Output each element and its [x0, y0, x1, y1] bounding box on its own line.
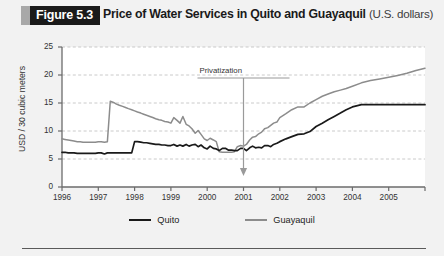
figure-title-units: (U.S. dollars)	[369, 7, 433, 20]
figure-number-badge: Figure 5.3	[21, 6, 100, 25]
chart-legend: Quito Guayaquil	[0, 212, 444, 228]
privatization-annotation-label: Privatization	[200, 66, 242, 75]
figure-container: Figure 5.3 Price of Water Services in Qu…	[0, 0, 444, 256]
chart-body: USD / 30 cubic meters Privatization 0510…	[0, 30, 444, 230]
figure-header: Figure 5.3 Price of Water Services in Qu…	[0, 0, 444, 30]
y-axis-tick-label: 0	[33, 182, 53, 191]
x-axis-tick-label: 2001	[227, 193, 261, 202]
x-axis-tick-label: 2003	[299, 193, 333, 202]
y-axis-tick-label: 25	[33, 42, 53, 51]
legend-item-quito: Quito	[129, 215, 179, 225]
figure-bottom-rule	[22, 248, 426, 249]
legend-label-quito: Quito	[157, 215, 179, 225]
x-axis-tick-label: 2002	[263, 193, 297, 202]
y-axis-tick-label: 5	[33, 154, 53, 163]
figure-title-text: Price of Water Services in Quito and Gua…	[103, 7, 366, 21]
x-axis-tick-label: 1996	[45, 193, 79, 202]
y-axis-tick-label: 10	[33, 126, 53, 135]
x-axis-tick-label: 1999	[154, 193, 188, 202]
legend-swatch-quito	[129, 219, 151, 221]
y-axis-tick-label: 15	[33, 98, 53, 107]
y-axis-tick-label: 20	[33, 70, 53, 79]
legend-label-guayaquil: Guayaquil	[273, 215, 314, 225]
legend-swatch-guayaquil	[245, 219, 267, 221]
x-axis-tick-label: 1998	[118, 193, 152, 202]
x-axis-tick-label: 1997	[81, 193, 115, 202]
legend-item-guayaquil: Guayaquil	[245, 215, 314, 225]
figure-title: Price of Water Services in Quito and Gua…	[103, 7, 433, 21]
x-axis-tick-label: 2000	[190, 193, 224, 202]
x-axis-tick-label: 2004	[335, 193, 369, 202]
figure-badge-accent	[21, 6, 30, 25]
x-axis-tick-label: 2005	[372, 193, 406, 202]
figure-number-label: Figure 5.3	[30, 6, 100, 25]
